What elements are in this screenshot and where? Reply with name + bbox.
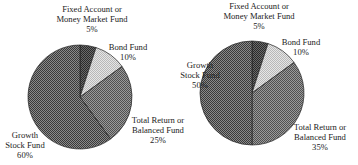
slice-label: Total Return orBalanced Fund25% — [132, 115, 185, 145]
pie-chart-left: Fixed Account orMoney Market Fund5%Bond … — [5, 4, 184, 160]
pie-charts: Fixed Account orMoney Market Fund5%Bond … — [0, 0, 358, 165]
pie-chart-right: Fixed Account orMoney Market Fund5%Bond … — [180, 1, 346, 152]
pie-slice-growth-stock-fund — [200, 41, 252, 145]
slice-label: Bond Fund10% — [282, 37, 321, 57]
chart-stage: Fixed Account orMoney Market Fund5%Bond … — [0, 0, 358, 165]
slice-label: Total Return orBalanced Fund35% — [294, 122, 347, 152]
slice-label: Fixed Account orMoney Market Fund5% — [56, 4, 128, 34]
slice-label: Fixed Account orMoney Market Fund5% — [223, 1, 295, 31]
slice-label: GrowthStock Fund60% — [5, 130, 45, 160]
